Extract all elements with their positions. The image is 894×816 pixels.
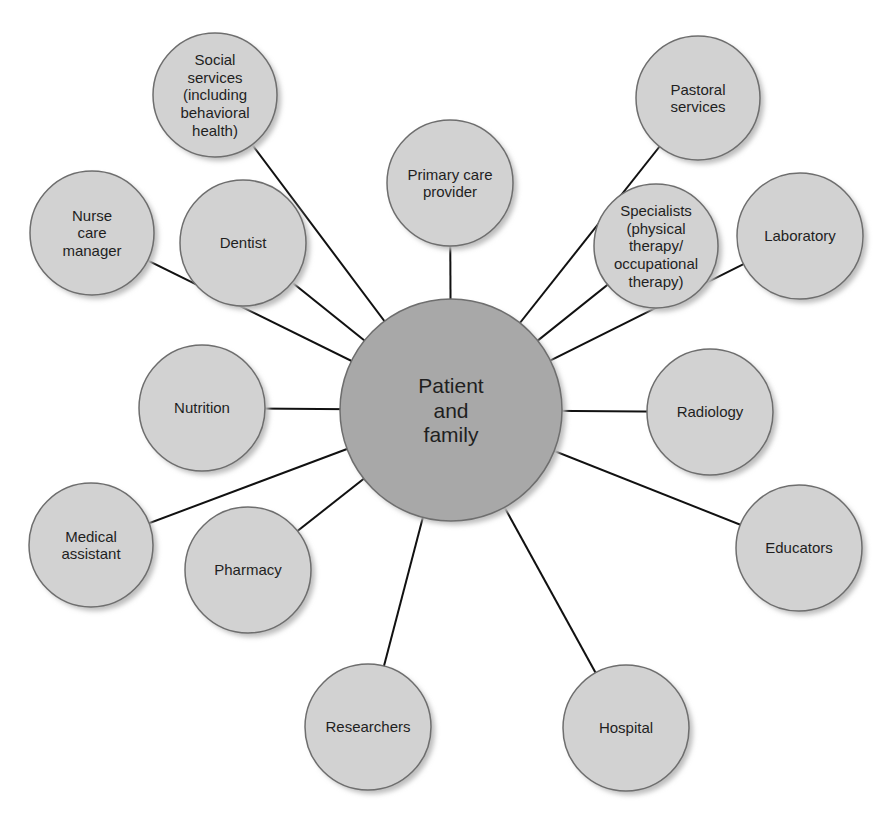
- node-label-line: Social: [195, 51, 236, 68]
- node-researchers: Researchers: [305, 664, 431, 790]
- hub-label-line: family: [424, 423, 479, 446]
- node-educators: Educators: [736, 485, 862, 611]
- node-label-line: provider: [423, 183, 477, 200]
- node-dentist: Dentist: [180, 180, 306, 306]
- node-nutrition: Nutrition: [139, 345, 265, 471]
- node-label-line: Laboratory: [764, 227, 836, 244]
- node-label-line: assistant: [61, 545, 121, 562]
- node-label-line: services: [187, 69, 242, 86]
- node-label-line: Dentist: [220, 234, 268, 251]
- node-label-line: therapy/: [629, 237, 684, 254]
- node-medical-assistant: Medicalassistant: [29, 483, 153, 607]
- node-label-line: occupational: [614, 255, 698, 272]
- node-label-line: Educators: [765, 539, 833, 556]
- node-pastoral-services: Pastoralservices: [636, 36, 760, 160]
- care-team-diagram: Socialservices(includingbehavioralhealth…: [0, 0, 894, 816]
- node-label-line: health): [192, 122, 238, 139]
- node-label-line: Researchers: [325, 718, 410, 735]
- node-primary-care-provider: Primary careprovider: [387, 120, 513, 246]
- node-label-line: Nutrition: [174, 399, 230, 416]
- node-label-line: Radiology: [677, 403, 744, 420]
- node-specialists: Specialists(physicaltherapy/occupational…: [594, 184, 718, 308]
- hub-node: Patientandfamily: [340, 299, 562, 521]
- node-label-line: Specialists: [620, 202, 692, 219]
- node-label-line: (including: [183, 86, 247, 103]
- node-label-line: Pastoral: [670, 81, 725, 98]
- node-label-line: Nurse: [72, 207, 112, 224]
- node-label-line: Primary care: [407, 166, 492, 183]
- node-label-line: Hospital: [599, 719, 653, 736]
- node-nurse-care-manager: Nursecaremanager: [30, 171, 154, 295]
- node-pharmacy: Pharmacy: [185, 507, 311, 633]
- node-label-line: therapy): [628, 273, 683, 290]
- node-social-services: Socialservices(includingbehavioralhealth…: [153, 33, 277, 157]
- node-hospital: Hospital: [563, 665, 689, 791]
- node-label-line: behavioral: [180, 104, 249, 121]
- hub-label-line: and: [433, 399, 468, 422]
- node-label-line: (physical: [626, 220, 685, 237]
- node-label-line: Pharmacy: [214, 561, 282, 578]
- node-laboratory: Laboratory: [737, 173, 863, 299]
- node-label-line: Medical: [65, 528, 117, 545]
- hub-node-group: Patientandfamily: [340, 299, 562, 521]
- node-label-line: manager: [62, 242, 121, 259]
- hub-label-line: Patient: [418, 374, 484, 397]
- node-label-line: services: [670, 98, 725, 115]
- node-label-line: care: [77, 224, 106, 241]
- node-radiology: Radiology: [647, 349, 773, 475]
